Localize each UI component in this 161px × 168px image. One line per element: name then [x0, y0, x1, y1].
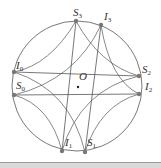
arc-S0-I3 — [14, 25, 101, 95]
point-S0: S0 — [12, 79, 26, 97]
svg-text:S2: S2 — [142, 63, 152, 77]
point-I2: I2 — [137, 80, 153, 96]
svg-text:I3: I3 — [103, 10, 112, 24]
point-S3: S3 — [73, 6, 83, 23]
arc-S0-I1 — [14, 95, 62, 151]
svg-text:I2: I2 — [144, 80, 153, 94]
arc-S2-I1 — [62, 76, 139, 151]
center-label: O — [79, 70, 87, 82]
svg-text:S3: S3 — [73, 6, 83, 20]
svg-text:I0: I0 — [15, 59, 24, 73]
center-point — [77, 86, 79, 88]
arc-I0-S3 — [14, 21, 76, 72]
chord-I0-S2 — [14, 72, 139, 76]
svg-text:S1: S1 — [87, 136, 97, 150]
chord-S0-I2 — [14, 94, 139, 95]
point-I3: I3 — [99, 10, 112, 27]
outer-circle — [12, 21, 142, 151]
svg-text:S0: S0 — [16, 79, 26, 93]
arc-I0-S1 — [14, 72, 85, 152]
diagram-canvas: O S3 I3 I0 S2 S0 I2 I1 S1 — [0, 0, 161, 168]
point-S1: S1 — [83, 136, 97, 154]
arc-S3-S2 — [76, 21, 139, 76]
bottom-divider — [0, 162, 161, 168]
svg-text:I1: I1 — [64, 136, 73, 150]
